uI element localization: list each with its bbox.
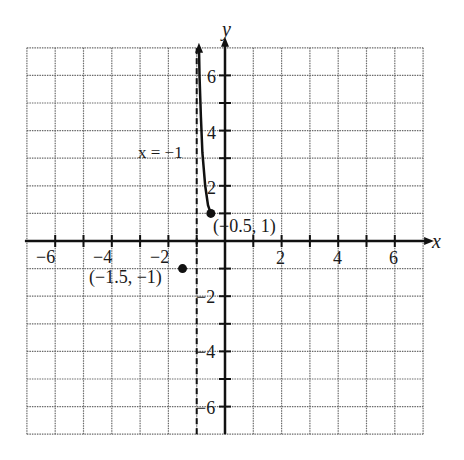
svg-text:4: 4: [333, 248, 342, 268]
point-b: [178, 264, 187, 273]
graph: x y x = −1 (−0.5, 1) (−1.5, −1) −6 −4 −2…: [0, 0, 464, 460]
svg-text:−4: −4: [196, 342, 215, 362]
x-tick-labels: −6 −4 −2 2 4 6: [36, 247, 398, 268]
svg-text:−4: −4: [93, 247, 112, 267]
svg-text:4: 4: [207, 123, 216, 143]
svg-text:2: 2: [207, 178, 216, 198]
svg-text:2: 2: [276, 248, 285, 268]
svg-text:−6: −6: [36, 247, 55, 267]
x-axis-label: x: [431, 230, 441, 252]
svg-text:−6: −6: [196, 398, 215, 418]
point-a-label: (−0.5, 1): [213, 216, 276, 237]
point-b-label: (−1.5, −1): [89, 267, 162, 288]
svg-text:6: 6: [207, 67, 216, 87]
axes: [25, 42, 429, 434]
svg-text:−2: −2: [196, 287, 215, 307]
svg-text:6: 6: [389, 248, 398, 268]
asymptote-label: x = −1: [138, 143, 183, 162]
y-tick-labels: 6 4 2 −2 −4 −6: [196, 67, 216, 418]
svg-text:−2: −2: [150, 247, 169, 267]
y-axis-label: y: [220, 18, 231, 41]
